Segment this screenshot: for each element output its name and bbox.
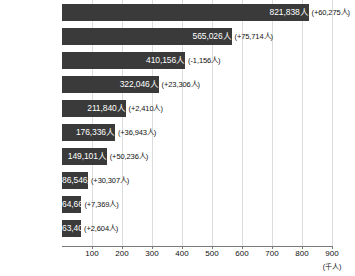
bar-value-label: 211,840人 [62,100,129,117]
bar-delta-label: (+50,236人) [110,148,148,165]
bar-row: 台湾64,663人(+7,369人) [62,196,332,213]
bar-value-label: 322,046人 [62,76,162,93]
bar-delta-label: (+2,410人) [129,100,163,117]
bar-value-label: 86,546人 [62,172,91,189]
x-axis-line [62,246,333,247]
bar-delta-label: (+2,604人) [84,220,118,237]
bar-delta-label: (+75,714人) [235,28,273,45]
plot-area: 中国821,838人(+60,275人)ベトナム565,026人(+75,714… [62,0,332,246]
bar-value-label: 821,838人 [62,4,312,21]
bar-row: 韓国410,156人(-1,156人) [62,52,332,69]
bar-row: ミャンマー86,546人(+30,307人) [62,172,332,189]
bar-delta-label: (-1,156人) [188,52,220,69]
bar-delta-label: (+36,943人) [118,124,156,141]
x-axis-unit-label: (千人) [309,261,355,271]
bar-row: 米国63,408人(+2,604人) [62,220,332,237]
bar-value-label: 176,336人 [62,124,118,141]
bar-value-label: 64,663人 [62,196,84,213]
bar-row: フィリピン322,046人(+23,306人) [62,76,332,93]
bar-value-label: 410,156人 [62,52,188,69]
bar-delta-label: (+23,306人) [162,76,200,93]
bar-row: 中国821,838人(+60,275人) [62,4,332,21]
bar-delta-label: (+30,307人) [91,172,129,189]
bar-row: ベトナム565,026人(+75,714人) [62,28,332,45]
bar-value-label: 149,101人 [62,148,110,165]
bar-value-label: 63,408人 [62,220,84,237]
bar-delta-label: (+7,369人) [84,196,118,213]
x-axis-tick-label: 900 [312,249,352,258]
bar-value-label: 565,026人 [62,28,235,45]
x-axis-tick-labels: 100200300400500600700800900 [0,249,349,263]
bar-row: ブラジル211,840人(+2,410人) [62,100,332,117]
bar-row: ネパール176,336人(+36,943人) [62,124,332,141]
bar-row: インドネシア149,101人(+50,236人) [62,148,332,165]
bar-delta-label: (+60,275人) [312,4,350,21]
gridline [332,0,333,246]
